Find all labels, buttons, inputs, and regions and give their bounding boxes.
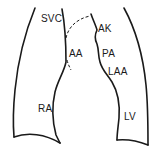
aortic-arch-dashed-outline — [66, 16, 90, 38]
label-ak: AK — [98, 24, 112, 34]
diagram-lines — [0, 0, 156, 153]
label-ra: RA — [38, 104, 52, 114]
heart-border-diagram: SVC AA AK PA LAA RA LV — [0, 0, 156, 153]
label-laa: LAA — [108, 67, 128, 77]
label-lv: LV — [124, 112, 136, 122]
right-lung-base — [14, 134, 60, 143]
right-heart-border — [53, 9, 66, 143]
left-lung-base — [117, 140, 148, 145]
ascending-aorta-dashed-outline — [67, 60, 71, 70]
label-svc: SVC — [41, 14, 62, 24]
label-aa: AA — [69, 49, 83, 59]
label-pa: PA — [102, 49, 115, 59]
right-lung-outer-border — [13, 8, 35, 137]
